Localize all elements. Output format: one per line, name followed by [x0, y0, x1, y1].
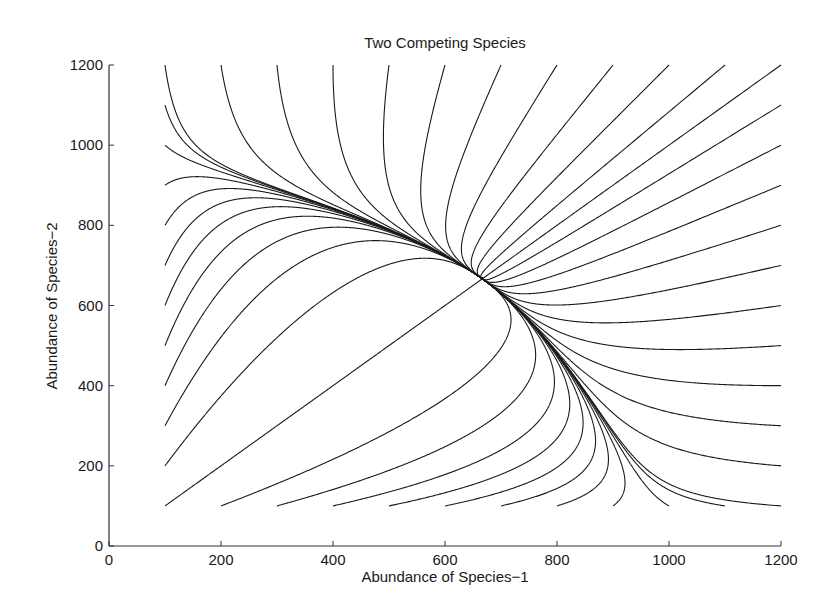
trajectory-line	[482, 145, 781, 282]
trajectory-lines	[165, 65, 781, 506]
trajectory-line	[333, 65, 482, 279]
trajectory-line	[482, 279, 781, 506]
x-tick-label: 1200	[751, 552, 811, 567]
trajectory-line	[383, 65, 482, 279]
trajectory-line	[165, 207, 482, 306]
x-tick-label: 200	[191, 552, 251, 567]
chart-title: Two Competing Species	[109, 34, 781, 51]
trajectory-line	[165, 279, 482, 506]
trajectory-line	[165, 189, 482, 279]
trajectory-line	[389, 279, 570, 506]
trajectory-line	[221, 279, 511, 506]
y-tick-label: 0	[43, 538, 103, 553]
trajectory-line	[482, 279, 595, 506]
x-tick-label: 600	[415, 552, 475, 567]
trajectory-line	[482, 279, 781, 466]
y-tick-label: 600	[43, 298, 103, 313]
trajectory-line	[482, 279, 781, 386]
trajectory-line	[221, 65, 482, 279]
trajectory-line	[482, 279, 608, 506]
x-tick-label: 0	[79, 552, 139, 567]
trajectory-line	[481, 65, 725, 279]
x-axis-label: Abundance of Species−1	[109, 568, 781, 585]
y-tick-label: 1000	[43, 137, 103, 152]
y-tick-label: 400	[43, 378, 103, 393]
trajectory-line	[165, 258, 482, 466]
y-tick-label: 1200	[43, 57, 103, 72]
trajectory-line	[165, 216, 482, 345]
trajectory-line	[165, 198, 482, 279]
x-tick-label: 800	[527, 552, 587, 567]
trajectory-line	[165, 65, 482, 279]
y-tick-label: 800	[43, 217, 103, 232]
x-tick-label: 400	[303, 552, 363, 567]
phase-plane-plot	[0, 0, 838, 614]
trajectory-line	[445, 279, 583, 506]
trajectory-line	[482, 279, 781, 350]
trajectory-line	[277, 65, 482, 279]
trajectory-line	[482, 105, 781, 280]
chart-container: Two Competing Species Abundance of Speci…	[0, 0, 838, 614]
trajectory-line	[482, 279, 781, 426]
trajectory-line	[477, 65, 669, 279]
x-tick-label: 1000	[639, 552, 699, 567]
trajectory-line	[277, 279, 536, 506]
trajectory-line	[165, 241, 482, 426]
y-tick-label: 200	[43, 458, 103, 473]
